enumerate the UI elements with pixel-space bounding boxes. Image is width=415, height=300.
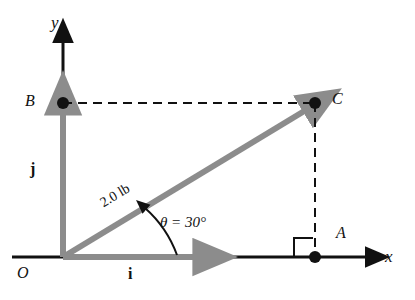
unit-vector-j-label: j <box>30 161 35 177</box>
diagram-canvas <box>0 0 415 300</box>
y-axis-label: y <box>51 14 59 31</box>
origin-label: O <box>17 265 29 281</box>
angle-label: θ = 30° <box>160 215 206 230</box>
point-dot-c <box>309 97 321 109</box>
vector-diagram: y x O B C A j i 2.0 lb θ = 30° <box>0 0 415 300</box>
point-label-c: C <box>332 91 343 107</box>
point-label-b: B <box>25 93 35 109</box>
force-vector-arrow <box>63 110 306 257</box>
x-axis-label: x <box>385 248 393 265</box>
unit-vector-i-label: i <box>128 266 132 282</box>
point-dot-a <box>309 251 321 263</box>
point-label-a: A <box>336 225 346 241</box>
point-dot-b <box>57 97 69 109</box>
